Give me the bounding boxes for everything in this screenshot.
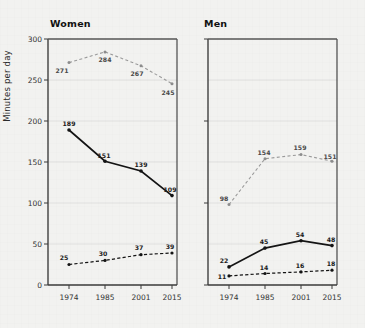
data-label-women-upper-1974: 271 <box>56 67 69 74</box>
data-label-men-lower-1985: 14 <box>260 264 269 271</box>
data-label-men-upper-1985: 154 <box>258 149 271 156</box>
data-label-women-upper-2001: 267 <box>131 70 144 77</box>
x-tick-men-2001: 2001 <box>291 293 310 302</box>
data-label-women-middle-1985: 151 <box>98 152 111 159</box>
data-label-women-middle-1974: 189 <box>63 120 76 127</box>
data-label-men-upper-1974: 98 <box>220 195 229 202</box>
data-label-men-middle-1974: 22 <box>220 257 229 264</box>
data-label-men-middle-2001: 54 <box>296 231 305 238</box>
gridlines-men <box>208 80 337 244</box>
x-tick-women-2015: 2015 <box>162 293 181 302</box>
series-men-upper <box>228 153 334 206</box>
data-label-men-middle-1985: 45 <box>260 238 269 245</box>
series-men-lower <box>227 269 333 278</box>
data-label-women-lower-1985: 30 <box>99 250 108 257</box>
x-tick-women-1974: 1974 <box>59 293 78 302</box>
data-label-men-lower-2015: 18 <box>327 260 336 267</box>
data-label-women-lower-1974: 25 <box>60 254 69 261</box>
x-tick-men-1985: 1985 <box>255 293 274 302</box>
data-label-men-upper-2001: 159 <box>294 144 307 151</box>
data-label-women-upper-1985: 284 <box>99 56 112 63</box>
series-men-middle <box>227 239 334 269</box>
data-label-men-lower-2001: 16 <box>296 262 305 269</box>
data-label-men-lower-1974: 11 <box>218 273 227 280</box>
gridlines-women <box>48 80 177 244</box>
data-label-women-upper-2015: 245 <box>162 89 175 96</box>
x-tick-women-1985: 1985 <box>95 293 114 302</box>
x-tick-women-2001: 2001 <box>131 293 150 302</box>
series-women-lower <box>67 251 173 266</box>
data-label-women-lower-2015: 39 <box>166 243 175 250</box>
x-tick-men-1974: 1974 <box>219 293 238 302</box>
data-label-women-middle-2015: 109 <box>164 186 177 193</box>
chart-canvas <box>0 0 365 328</box>
data-label-men-upper-2015: 151 <box>324 153 337 160</box>
data-label-women-middle-2001: 139 <box>135 161 148 168</box>
data-label-men-middle-2015: 48 <box>327 236 336 243</box>
chart-figure: Minutes per day 300 250 200 150 100 50 0… <box>0 0 365 328</box>
data-label-women-lower-2001: 37 <box>135 244 144 251</box>
x-tick-men-2015: 2015 <box>322 293 341 302</box>
series-women-middle <box>67 128 174 197</box>
